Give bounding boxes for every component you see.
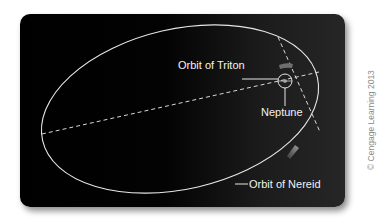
triton-direction-arrow-icon	[279, 63, 293, 69]
nereid-direction-arrow-icon	[287, 145, 299, 159]
copyright-credit: © Cengage Learning 2013	[366, 70, 376, 170]
neptune-label: Neptune	[261, 107, 303, 118]
major-axis-dashed-line	[42, 72, 319, 134]
nereid-orbit-label: Orbit of Nereid	[249, 179, 321, 190]
diagram-panel: Orbit of Triton Neptune Orbit of Nereid	[20, 14, 345, 207]
triton-orbit-label: Orbit of Triton	[178, 60, 245, 71]
